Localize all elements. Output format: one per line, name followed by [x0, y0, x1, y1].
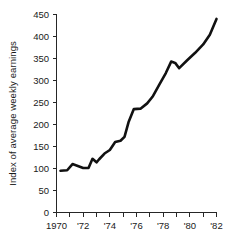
x-axis: 1970'72'74'76'78'80'82 [46, 213, 223, 231]
y-tick-label: 250 [33, 97, 49, 108]
y-tick-label: 400 [33, 31, 49, 42]
x-tick-label: '80 [184, 220, 196, 231]
x-tick-label: '82 [210, 220, 222, 231]
chart-figure: 050100150200250300350400450 1970'72'74'7… [0, 0, 238, 244]
y-tick-label: 300 [33, 75, 49, 86]
x-tick-label: '72 [77, 220, 89, 231]
y-axis-title: Index of average weekly earnings [7, 41, 18, 186]
y-tick-label: 450 [33, 9, 49, 20]
data-line-index-of-average-weekly-earnings [61, 19, 217, 171]
x-tick-label: '74 [104, 220, 116, 231]
line-chart: 050100150200250300350400450 1970'72'74'7… [0, 0, 238, 244]
data-series-group [61, 19, 217, 171]
y-tick-label: 200 [33, 119, 49, 130]
x-tick-label: '76 [130, 220, 142, 231]
y-tick-label: 0 [44, 207, 49, 218]
y-axis: 050100150200250300350400450 [33, 9, 56, 218]
y-tick-label: 100 [33, 163, 49, 174]
x-tick-label: '78 [157, 220, 169, 231]
y-tick-label: 350 [33, 53, 49, 64]
x-tick-label: 1970 [46, 220, 67, 231]
y-axis-title-text: Index of average weekly earnings [7, 41, 18, 186]
y-tick-label: 50 [38, 185, 49, 196]
y-tick-label: 150 [33, 141, 49, 152]
